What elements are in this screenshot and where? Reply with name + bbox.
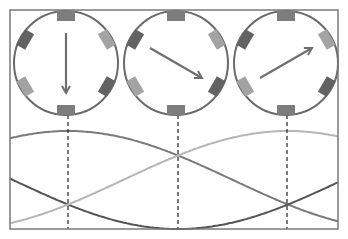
magnet-pole-1 — [167, 11, 185, 21]
magnet-pole-1 — [277, 11, 295, 21]
rotor-3 — [234, 11, 338, 115]
diagram-canvas — [0, 0, 348, 239]
phase-C-wave — [10, 131, 338, 223]
rotor-1 — [14, 11, 118, 115]
rotor-2 — [124, 11, 228, 115]
magnet-pole-1 — [57, 11, 75, 21]
three-phase-diagram — [0, 0, 348, 239]
time-marker-lines — [68, 115, 287, 229]
phase-waveforms — [10, 131, 338, 229]
rotor-diagrams — [14, 11, 338, 115]
magnet-pole-4 — [167, 105, 185, 115]
phase-B-wave — [10, 179, 338, 229]
magnet-pole-4 — [277, 105, 295, 115]
magnet-pole-4 — [57, 105, 75, 115]
